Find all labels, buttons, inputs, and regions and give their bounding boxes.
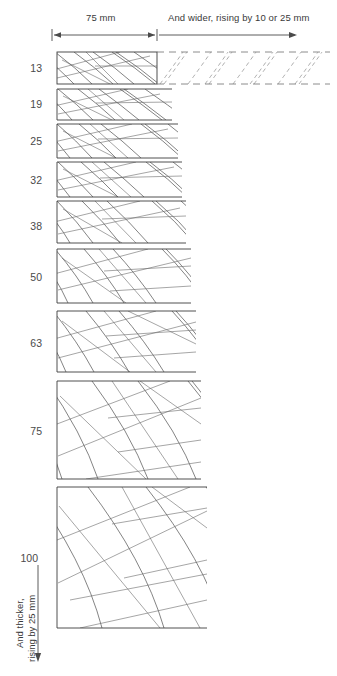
dimension-arrows [52,29,297,41]
diagram-canvas: 75 mm And wider, rising by 10 or 25 mm 1… [0,0,337,676]
pattern-row-38 [38,201,223,243]
pattern-row-100 [0,487,337,628]
pattern-row-25 [40,124,208,158]
pattern-row-19 [42,89,188,120]
pattern-row-75 [14,381,298,479]
pattern-row-63 [30,311,255,372]
dashed-extension-row-13 [157,52,330,84]
pattern-row-50 [34,249,239,303]
pattern-row-32 [40,162,214,197]
vertical-axis-arrow [35,565,41,662]
pattern-row-13 [40,52,330,84]
pattern-drawing [0,0,337,676]
